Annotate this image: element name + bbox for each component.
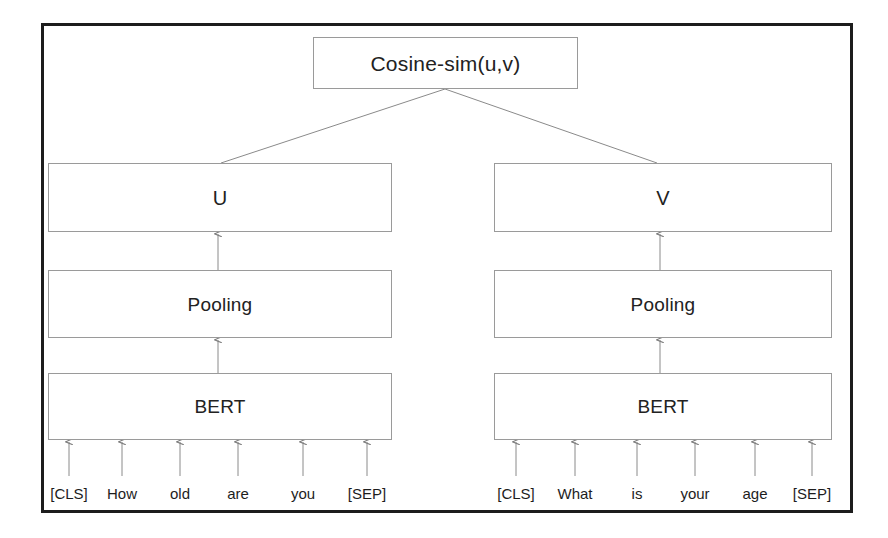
bert-left-label: BERT <box>194 397 245 416</box>
embedding-v-label: V <box>656 188 670 208</box>
input-token-right-0: [CLS] <box>497 483 535 505</box>
input-token-left-0: [CLS] <box>50 483 88 505</box>
bert-right-label: BERT <box>637 397 688 416</box>
figure-canvas: Cosine-sim(u,v) U V Pooling Pooling BERT… <box>0 0 888 538</box>
bert-left-node: BERT <box>48 373 392 440</box>
pooling-left-node: Pooling <box>48 270 392 338</box>
input-token-right-3: your <box>680 483 709 505</box>
pooling-left-label: Pooling <box>188 295 253 314</box>
input-token-right-2: is <box>632 483 643 505</box>
embedding-u-label: U <box>213 188 228 208</box>
cosine-similarity-node: Cosine-sim(u,v) <box>313 37 578 89</box>
embedding-u-node: U <box>48 163 392 232</box>
bert-right-node: BERT <box>494 373 832 440</box>
cosine-similarity-label: Cosine-sim(u,v) <box>370 53 520 74</box>
embedding-v-node: V <box>494 163 832 232</box>
input-token-left-3: are <box>227 483 249 505</box>
input-token-left-2: old <box>170 483 190 505</box>
input-token-left-5: [SEP] <box>348 483 386 505</box>
pooling-right-node: Pooling <box>494 270 832 338</box>
input-token-right-4: age <box>742 483 767 505</box>
pooling-right-label: Pooling <box>631 295 696 314</box>
input-token-right-1: What <box>557 483 592 505</box>
input-token-right-5: [SEP] <box>793 483 831 505</box>
input-token-left-4: you <box>291 483 315 505</box>
input-token-left-1: How <box>107 483 137 505</box>
